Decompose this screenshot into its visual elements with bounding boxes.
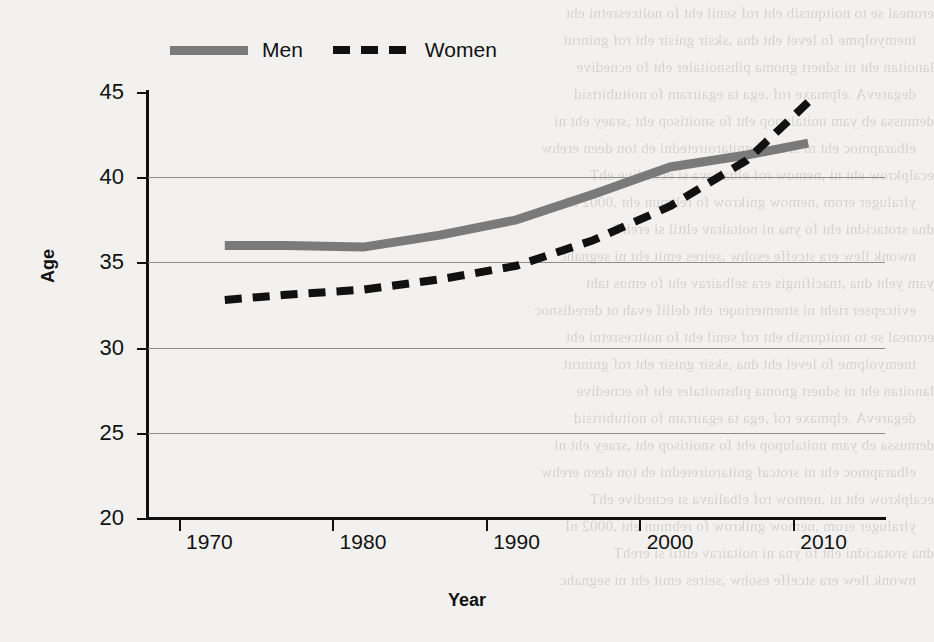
plot-area: 202530354045 19701980199020002010	[148, 92, 885, 518]
series-line-men	[225, 143, 808, 247]
solid-line-swatch-icon	[170, 46, 248, 55]
x-tick-2008	[793, 518, 795, 531]
y-tick-label-20: 20	[76, 505, 124, 531]
x-tick-1988	[486, 518, 488, 531]
series-canvas	[148, 92, 885, 518]
y-tick-35	[137, 262, 148, 264]
y-tick-label-30: 30	[76, 335, 124, 361]
y-tick-25	[137, 433, 148, 435]
x-tick-label-1990: 1990	[493, 530, 540, 554]
x-tick-1968	[179, 518, 181, 531]
y-tick-label-35: 35	[76, 249, 124, 275]
x-tick-1978	[332, 518, 334, 531]
x-tick-label-1970: 1970	[186, 530, 233, 554]
y-tick-label-25: 25	[76, 420, 124, 446]
series-line-women	[225, 102, 808, 300]
legend-item-women[interactable]: Women	[333, 38, 497, 62]
line-chart: Men Women Age 202530354045 1970198019902…	[0, 0, 934, 642]
dashed-line-swatch-icon	[333, 46, 411, 54]
x-axis-title: Year	[0, 590, 934, 611]
x-tick-label-2000: 2000	[647, 530, 694, 554]
y-axis-title: Age	[38, 249, 59, 283]
x-tick-1998	[639, 518, 641, 531]
y-tick-20	[137, 518, 148, 520]
legend-item-men[interactable]: Men	[170, 38, 303, 62]
legend-label-women: Women	[425, 38, 497, 62]
y-tick-label-40: 40	[76, 164, 124, 190]
legend-label-men: Men	[262, 38, 303, 62]
y-tick-45	[137, 92, 148, 94]
chart-legend: Men Women	[170, 38, 497, 62]
y-tick-40	[137, 177, 148, 179]
x-tick-label-1980: 1980	[340, 530, 387, 554]
y-tick-30	[137, 348, 148, 350]
x-tick-label-2010: 2010	[800, 530, 847, 554]
y-tick-label-45: 45	[76, 79, 124, 105]
